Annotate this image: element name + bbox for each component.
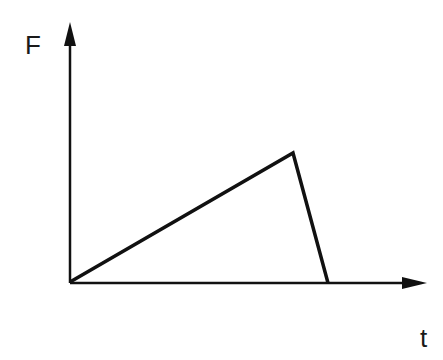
force-time-diagram xyxy=(0,0,443,360)
y-axis-arrow-icon xyxy=(64,22,76,46)
x-axis-arrow-icon xyxy=(402,277,427,289)
force-pulse-curve xyxy=(70,153,328,283)
y-axis-label: F xyxy=(25,32,41,58)
x-axis-label: t xyxy=(420,325,427,351)
